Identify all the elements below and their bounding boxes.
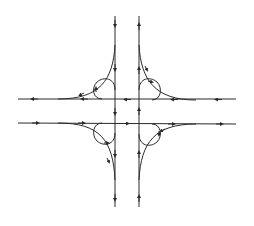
outer-ramp-top-right: [139, 45, 196, 100]
loop-ramp-bottom-left: [94, 123, 115, 144]
outer-ramp-bottom-left: [58, 123, 115, 180]
outer-ramp-bottom-right: [139, 124, 196, 180]
outer-ramp-top-left: [58, 45, 115, 99]
westbound-road: [18, 99, 236, 100]
cloverleaf-interchange-diagram: [0, 0, 254, 226]
eastbound-road: [18, 123, 236, 124]
